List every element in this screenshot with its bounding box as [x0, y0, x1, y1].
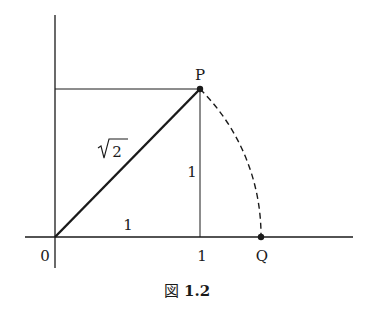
vertical-side-label: 1 — [187, 163, 197, 181]
caption-prefix: 図 — [164, 282, 179, 300]
hypotenuse-line — [55, 89, 200, 237]
point-p-dot — [197, 86, 203, 92]
point-p-label: P — [195, 66, 205, 84]
horizontal-side-label: 1 — [123, 216, 133, 234]
dashed-arc — [200, 89, 261, 237]
figure-caption: 図 1.2 — [164, 282, 210, 300]
x-tick-one-label: 1 — [197, 247, 207, 265]
figure-diagram: P Q 0 1 1 1 2 図 1.2 — [0, 0, 375, 315]
hypotenuse-label: 2 — [98, 139, 128, 161]
point-q-dot — [258, 234, 264, 240]
point-q-label: Q — [256, 247, 268, 265]
origin-label: 0 — [40, 247, 50, 265]
hypotenuse-radicand: 2 — [112, 143, 122, 161]
caption-number: 1.2 — [184, 282, 210, 300]
